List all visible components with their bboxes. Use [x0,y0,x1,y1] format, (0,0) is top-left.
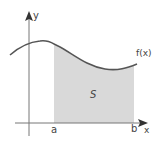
integral-area-diagram: y f(x) S a b x [0,0,160,142]
curve-label: f(x) [136,48,152,58]
lower-bound-label: a [51,124,57,135]
x-axis-label: x [144,125,150,135]
y-axis-label: y [33,10,39,21]
upper-bound-label: b [131,123,137,134]
region-label: S [90,89,97,100]
shaded-region-s [54,45,134,123]
